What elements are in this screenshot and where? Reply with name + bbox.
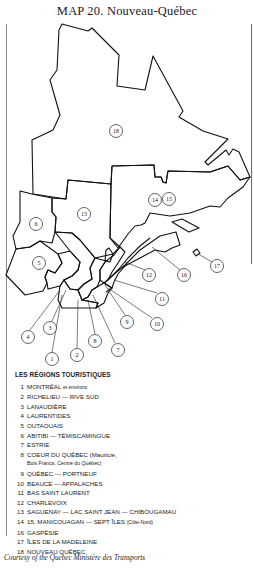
legend-item: 3LANAUDIÈRE [15, 402, 176, 412]
marker-4: 4 [22, 331, 35, 344]
madeleine-islands [193, 249, 200, 256]
legend-item: 11BAS SAINT LAURENT [15, 488, 176, 498]
region-5-outline [6, 241, 62, 295]
anticosti-island [172, 219, 199, 232]
svg-text:17: 17 [214, 263, 220, 269]
marker-13: 13 [78, 208, 91, 221]
marker-10: 10 [151, 318, 164, 331]
legend-item: 4LAURENTIDES [15, 411, 176, 421]
marker-3: 3 [44, 322, 57, 335]
legend-item: 17ÎLES DE LA MADELEINE [15, 537, 176, 547]
legend-item: 5OUTAOUAIS [15, 421, 176, 431]
svg-text:9: 9 [126, 319, 129, 325]
legend-item: 2RICHELIEU — RIVE SUD [15, 392, 176, 402]
region-11-12-16-outline [104, 232, 180, 288]
legend-item-continuation: Bois Francs, Centre du Québec) [15, 459, 176, 469]
marker-11: 11 [156, 293, 169, 306]
svg-text:11: 11 [159, 296, 165, 302]
region-14-15-outline [110, 165, 250, 248]
svg-text:15: 15 [166, 196, 172, 202]
svg-text:2: 2 [76, 352, 79, 358]
regions-legend: LES RÉGIONS TOURISTIQUES 1MONTRÉAL et en… [15, 370, 176, 556]
legend-item: 16GASPÉSIE [15, 528, 176, 538]
legend-item: 13SAGUENAY — LAC SAINT JEAN — CHIBOUGAMA… [15, 507, 176, 517]
marker-6: 6 [30, 218, 43, 231]
marker-5: 5 [33, 257, 46, 270]
svg-text:3: 3 [49, 325, 52, 331]
marker-9: 9 [121, 316, 134, 329]
marker-1: 1 [46, 353, 59, 366]
svg-text:4: 4 [27, 334, 30, 340]
legend-item: 10BEAUCE — APPALACHES [15, 479, 176, 489]
marker-12: 12 [143, 269, 156, 282]
legend-item: 1MONTRÉAL et environs [15, 382, 176, 393]
svg-text:18: 18 [113, 128, 119, 134]
svg-text:8: 8 [94, 338, 97, 344]
marker-16: 16 [178, 269, 191, 282]
region-number-markers: 18 14 15 13 6 5 17 16 12 11 10 9 7 8 2 1… [22, 125, 224, 366]
legend-title: LES RÉGIONS TOURISTIQUES [15, 370, 176, 380]
legend-item: 6ABITIBI — TÉMISCAMINGUE [15, 431, 176, 441]
marker-2: 2 [71, 349, 84, 362]
svg-text:12: 12 [146, 272, 152, 278]
svg-text:13: 13 [81, 211, 87, 217]
region-8-outline [78, 248, 113, 300]
svg-text:16: 16 [181, 272, 187, 278]
legend-item: 9QUÉBEC — PORTNEUF [15, 469, 176, 479]
legend-item: 7ESTRIE [15, 440, 176, 450]
svg-text:10: 10 [154, 321, 160, 327]
legend-item: 12CHARLEVOIX [15, 498, 176, 508]
marker-7: 7 [112, 344, 125, 357]
source-caption: Courtesy of the Quebec Ministère des Tra… [4, 554, 145, 562]
marker-18: 18 [110, 125, 123, 138]
marker-8: 8 [89, 335, 102, 348]
quebec-regions-map: 18 14 15 13 6 5 17 16 12 11 10 9 7 8 2 1… [0, 0, 254, 370]
svg-text:6: 6 [35, 221, 38, 227]
marker-17: 17 [211, 260, 224, 273]
svg-text:7: 7 [117, 347, 120, 353]
region-18-outline [32, 24, 250, 199]
svg-text:5: 5 [38, 260, 41, 266]
svg-text:1: 1 [51, 356, 54, 362]
legend-item: 8COEUR DU QUÉBEC (Mauricie, [15, 450, 176, 460]
marker-15: 15 [163, 193, 176, 206]
svg-text:14: 14 [152, 197, 158, 203]
legend-item: 1415. MANICOUAGAN — SEPT ÎLES (Côte-Nord… [15, 517, 176, 528]
marker-14: 14 [149, 194, 162, 207]
